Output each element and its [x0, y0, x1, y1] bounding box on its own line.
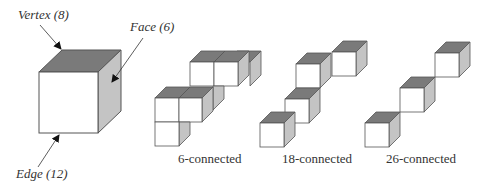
cluster-6-connected [155, 51, 261, 146]
vertex-label: Vertex (8) [18, 7, 69, 22]
label-26-connected: 26-connected [386, 151, 457, 166]
label-18-connected: 18-connected [282, 151, 353, 166]
edge-label: Edge (12) [15, 166, 68, 181]
cluster-18-connected [260, 41, 367, 147]
face-label: Face (6) [129, 19, 174, 34]
voxel-connectivity-diagram: Vertex (8) Face (6) Edge (12) [0, 0, 489, 186]
label-6-connected: 6-connected [178, 151, 242, 166]
big-cube [39, 50, 121, 133]
cluster-26-connected [365, 42, 470, 147]
